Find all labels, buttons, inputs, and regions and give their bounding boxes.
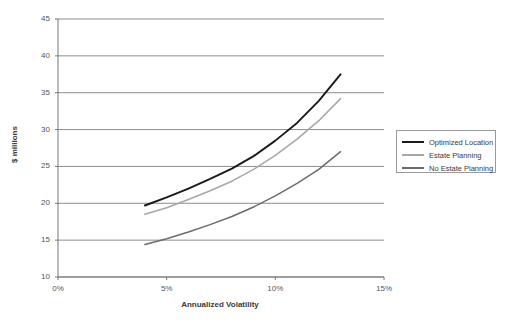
y-tick-label: 20 [28,198,50,208]
x-tick-label: 15% [369,284,399,294]
legend-label: Optimized Location [429,138,493,147]
x-axis-title: Annualized Volatility [160,300,280,309]
y-tick-label: 10 [28,272,50,282]
line-chart: 1015202530354045 0%5%10%15% Annualized V… [0,0,515,321]
y-tick-label: 25 [28,161,50,171]
x-tick-label: 0% [43,284,73,294]
legend-item: No Estate Planning [402,162,493,174]
legend-item: Estate Planning [402,149,482,161]
y-tick-label: 45 [28,14,50,24]
y-tick-label: 30 [28,125,50,135]
legend-swatch-line-icon [402,154,424,156]
y-tick-label: 35 [28,88,50,98]
x-tick-label: 5% [152,284,182,294]
legend-label: No Estate Planning [429,164,493,173]
y-axis-title: $ millions [10,115,19,175]
legend: Optimized LocationEstate PlanningNo Esta… [396,130,496,173]
x-tick-label: 10% [260,284,290,294]
legend-label: Estate Planning [429,151,482,160]
legend-item: Optimized Location [402,136,493,148]
y-tick-label: 15 [28,235,50,245]
legend-swatch-line-icon [402,141,424,143]
plot-background [58,19,384,277]
legend-swatch-line-icon [402,167,424,169]
y-tick-label: 40 [28,51,50,61]
